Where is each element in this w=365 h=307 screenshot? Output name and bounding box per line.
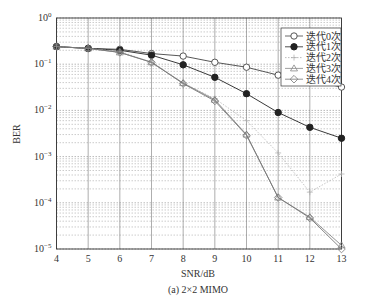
ber-chart: 4567891011121310010−110−210−310−410−5 迭代… [0,0,365,307]
x-tick-label: 12 [305,253,315,264]
legend-label: 迭代2次 [306,51,341,63]
y-tick-label: 10−1 [34,57,52,69]
x-tick-label: 11 [273,253,283,264]
x-tick-label: 4 [54,253,59,264]
legend: 迭代0次迭代1次迭代2次迭代3次迭代4次 [281,28,341,86]
legend-label: 迭代0次 [306,30,341,42]
x-tick-label: 5 [86,253,91,264]
y-axis-label: BER [11,124,22,144]
chart-caption: (a) 2×2 MIMO [168,284,228,296]
x-tick-label: 7 [149,253,154,264]
x-tick-label: 6 [117,253,122,264]
y-tick-label: 10−4 [34,196,52,208]
legend-label: 迭代4次 [306,73,341,85]
x-tick-label: 9 [212,253,217,264]
x-tick-label: 10 [242,253,252,264]
y-tick-label: 10−3 [34,150,52,162]
x-tick-label: 13 [337,253,347,264]
legend-label: 迭代3次 [306,62,341,74]
x-axis-label: SNR/dB [181,268,215,279]
x-tick-label: 8 [181,253,186,264]
y-tick-label: 10−2 [34,103,52,115]
y-tick-label: 100 [38,11,52,23]
legend-label: 迭代1次 [306,40,341,52]
y-tick-label: 10−5 [34,242,52,254]
